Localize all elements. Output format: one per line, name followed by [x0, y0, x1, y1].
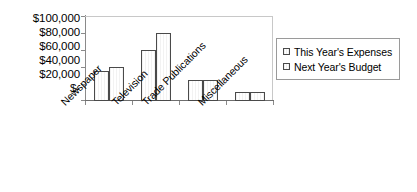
- y-tick-label: $60,000: [0, 41, 80, 52]
- y-tick-label: $100,000: [0, 13, 80, 24]
- y-tick-label: $20,000: [0, 69, 80, 80]
- legend-swatch-icon: [283, 48, 290, 55]
- legend-label: Next Year's Budget: [294, 61, 381, 73]
- bar-chart: $100,000 $80,000 $60,000 $40,000 $20,000…: [0, 0, 417, 192]
- y-tick-label: $40,000: [0, 55, 80, 66]
- legend-label: This Year's Expenses: [294, 46, 392, 58]
- legend-entry-next-years-budget: Next Year's Budget: [283, 59, 392, 74]
- category-axis-labels: Newspaper Television Trade Publications …: [0, 100, 290, 192]
- y-tick-label: $80,000: [0, 27, 80, 38]
- legend-swatch-icon: [283, 63, 290, 70]
- legend: This Year's Expenses Next Year's Budget: [276, 38, 400, 80]
- legend-entry-this-years-expenses: This Year's Expenses: [283, 44, 392, 59]
